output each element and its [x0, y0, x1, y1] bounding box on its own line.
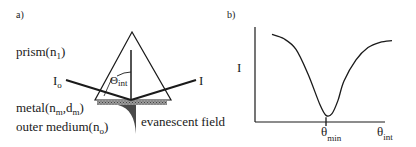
prism-label: prism(n1) — [16, 44, 65, 61]
angle-arc — [117, 72, 131, 76]
reflected-beam — [131, 80, 196, 100]
metal-label: metal(nm,dm) — [16, 100, 84, 117]
panel-a-label: a) — [16, 9, 24, 21]
theta-int-label: Θint — [110, 74, 128, 88]
panel-a: a) prism(n1) Io I Θint metal(nm,dm) — [16, 9, 226, 136]
evanescent-field-label: evanescent field — [141, 114, 226, 129]
panel-b-label: b) — [227, 9, 235, 21]
x-axis-label: θint — [377, 124, 393, 142]
y-axis-label: I — [237, 60, 241, 75]
reflected-intensity-label: I — [199, 73, 203, 88]
surface-plasmon-diagram: a) prism(n1) Io I Θint metal(nm,dm) — [0, 0, 416, 147]
evanescent-field-shape — [118, 105, 136, 134]
theta-min-label: θmin — [321, 124, 342, 143]
outer-medium-label: outer medium(no) — [16, 119, 108, 136]
metal-layer — [97, 100, 167, 105]
panel-b: b) I θmin θint — [227, 9, 393, 143]
incident-intensity-label: Io — [53, 73, 62, 90]
reflectivity-curve — [272, 34, 392, 116]
